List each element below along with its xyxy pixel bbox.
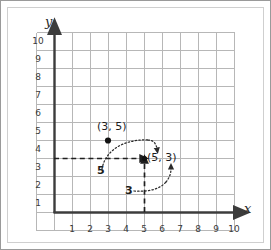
x-tick-5: 5 <box>135 224 153 234</box>
point-3-5-marker <box>105 137 111 143</box>
y-tick-2: 2 <box>29 180 47 190</box>
y-tick-7: 7 <box>29 90 47 100</box>
x-tick-9: 9 <box>207 224 225 234</box>
y-tick-6: 6 <box>29 108 47 118</box>
x-tick-4: 4 <box>117 224 135 234</box>
y-tick-10: 10 <box>29 36 47 46</box>
rise-annotation-curve <box>134 168 171 191</box>
x-tick-1: 1 <box>63 224 81 234</box>
point-b-label: (5, 3) <box>147 151 177 164</box>
run-distance-label: 5 <box>97 164 105 177</box>
x-axis-label: x <box>244 201 251 216</box>
y-tick-8: 8 <box>29 72 47 82</box>
y-tick-3: 3 <box>29 162 47 172</box>
x-tick-6: 6 <box>153 224 171 234</box>
x-tick-2: 2 <box>81 224 99 234</box>
figure-frame: 10 9 8 7 6 5 4 3 2 1 1 2 3 4 5 6 7 8 9 1… <box>0 0 271 250</box>
x-tick-8: 8 <box>189 224 207 234</box>
y-axis-label: y <box>45 14 52 29</box>
y-tick-5: 5 <box>29 126 47 136</box>
y-tick-1: 1 <box>29 198 47 208</box>
y-tick-4: 4 <box>29 144 47 154</box>
rise-distance-label: 3 <box>125 184 133 197</box>
x-tick-7: 7 <box>171 224 189 234</box>
x-tick-3: 3 <box>99 224 117 234</box>
y-tick-9: 9 <box>29 54 47 64</box>
point-a-label: (3, 5) <box>97 120 127 133</box>
x-tick-10: 10 <box>224 224 244 234</box>
